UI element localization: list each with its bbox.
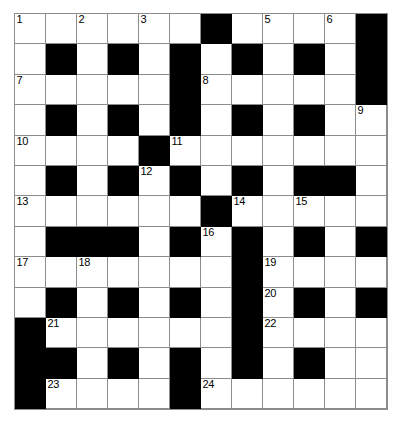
grid-cell[interactable] <box>46 257 77 287</box>
grid-cell[interactable]: 9 <box>356 105 387 135</box>
grid-cell[interactable] <box>77 166 108 196</box>
grid-cell[interactable] <box>108 196 139 226</box>
grid-cell[interactable]: 13 <box>15 196 46 226</box>
grid-cell[interactable] <box>263 105 294 135</box>
grid-cell[interactable] <box>201 318 232 348</box>
grid-cell[interactable] <box>325 196 356 226</box>
grid-cell[interactable] <box>325 136 356 166</box>
grid-cell[interactable] <box>77 348 108 378</box>
grid-cell[interactable] <box>139 44 170 74</box>
grid-cell[interactable] <box>170 318 201 348</box>
grid-cell[interactable]: 16 <box>201 227 232 257</box>
grid-cell[interactable] <box>325 257 356 287</box>
grid-cell[interactable] <box>263 136 294 166</box>
grid-cell[interactable] <box>108 136 139 166</box>
grid-cell[interactable] <box>139 196 170 226</box>
grid-cell[interactable] <box>77 196 108 226</box>
grid-cell[interactable] <box>263 196 294 226</box>
grid-cell[interactable] <box>139 379 170 409</box>
grid-cell[interactable]: 11 <box>170 136 201 166</box>
grid-cell[interactable] <box>325 105 356 135</box>
grid-cell[interactable]: 23 <box>46 379 77 409</box>
grid-cell[interactable] <box>139 348 170 378</box>
grid-cell[interactable] <box>77 288 108 318</box>
grid-cell[interactable] <box>263 348 294 378</box>
grid-cell[interactable] <box>294 14 325 44</box>
grid-cell[interactable] <box>325 379 356 409</box>
grid-cell[interactable] <box>139 257 170 287</box>
grid-cell[interactable] <box>294 318 325 348</box>
grid-cell[interactable] <box>263 75 294 105</box>
grid-cell[interactable] <box>294 379 325 409</box>
grid-cell[interactable]: 2 <box>77 14 108 44</box>
grid-cell[interactable] <box>263 379 294 409</box>
grid-cell[interactable]: 15 <box>294 196 325 226</box>
grid-cell[interactable]: 5 <box>263 14 294 44</box>
grid-cell[interactable] <box>170 14 201 44</box>
grid-cell[interactable]: 21 <box>46 318 77 348</box>
grid-cell[interactable] <box>201 166 232 196</box>
grid-cell[interactable] <box>201 105 232 135</box>
grid-cell[interactable] <box>77 105 108 135</box>
grid-cell[interactable] <box>232 379 263 409</box>
grid-cell[interactable] <box>356 318 387 348</box>
grid-cell[interactable] <box>263 227 294 257</box>
grid-cell[interactable] <box>77 379 108 409</box>
grid-cell[interactable]: 14 <box>232 196 263 226</box>
grid-cell[interactable] <box>139 288 170 318</box>
grid-cell[interactable] <box>15 288 46 318</box>
grid-cell[interactable] <box>232 75 263 105</box>
grid-cell[interactable] <box>232 14 263 44</box>
grid-cell[interactable] <box>263 166 294 196</box>
crossword-grid[interactable]: 12356789101112131415161718192021222324 <box>14 13 388 410</box>
grid-cell[interactable] <box>325 318 356 348</box>
grid-cell[interactable] <box>77 44 108 74</box>
grid-cell[interactable] <box>325 75 356 105</box>
grid-cell[interactable]: 3 <box>139 14 170 44</box>
grid-cell[interactable] <box>108 75 139 105</box>
grid-cell[interactable] <box>15 227 46 257</box>
grid-cell[interactable] <box>356 348 387 378</box>
grid-cell[interactable] <box>108 14 139 44</box>
grid-cell[interactable] <box>325 44 356 74</box>
grid-cell[interactable] <box>170 196 201 226</box>
grid-cell[interactable] <box>294 136 325 166</box>
grid-cell[interactable] <box>356 166 387 196</box>
grid-cell[interactable] <box>201 257 232 287</box>
grid-cell[interactable] <box>108 257 139 287</box>
grid-cell[interactable]: 19 <box>263 257 294 287</box>
grid-cell[interactable] <box>139 105 170 135</box>
grid-cell[interactable] <box>263 44 294 74</box>
grid-cell[interactable] <box>356 257 387 287</box>
grid-cell[interactable] <box>46 196 77 226</box>
grid-cell[interactable] <box>170 257 201 287</box>
grid-cell[interactable] <box>139 227 170 257</box>
grid-cell[interactable] <box>201 348 232 378</box>
grid-cell[interactable] <box>46 136 77 166</box>
grid-cell[interactable]: 22 <box>263 318 294 348</box>
grid-cell[interactable]: 17 <box>15 257 46 287</box>
grid-cell[interactable]: 24 <box>201 379 232 409</box>
grid-cell[interactable] <box>77 136 108 166</box>
grid-cell[interactable] <box>232 136 263 166</box>
grid-cell[interactable] <box>139 75 170 105</box>
grid-cell[interactable]: 12 <box>139 166 170 196</box>
grid-cell[interactable]: 20 <box>263 288 294 318</box>
grid-cell[interactable] <box>325 348 356 378</box>
grid-cell[interactable] <box>201 44 232 74</box>
grid-cell[interactable] <box>294 257 325 287</box>
grid-cell[interactable] <box>201 136 232 166</box>
grid-cell[interactable] <box>108 318 139 348</box>
grid-cell[interactable] <box>46 75 77 105</box>
grid-cell[interactable]: 6 <box>325 14 356 44</box>
grid-cell[interactable] <box>77 318 108 348</box>
grid-cell[interactable] <box>139 318 170 348</box>
grid-cell[interactable] <box>15 105 46 135</box>
grid-cell[interactable] <box>356 379 387 409</box>
grid-cell[interactable]: 10 <box>15 136 46 166</box>
grid-cell[interactable] <box>15 166 46 196</box>
grid-cell[interactable] <box>356 196 387 226</box>
grid-cell[interactable]: 1 <box>15 14 46 44</box>
grid-cell[interactable] <box>201 288 232 318</box>
grid-cell[interactable] <box>77 75 108 105</box>
